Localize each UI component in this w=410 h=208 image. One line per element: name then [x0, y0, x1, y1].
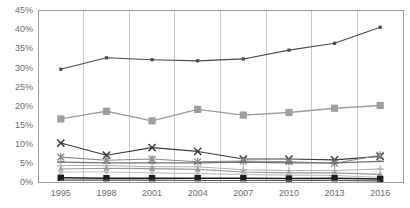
- data-point-marker: [379, 26, 382, 29]
- x-tick-label: 1998: [96, 188, 116, 198]
- data-point-marker: [377, 102, 384, 109]
- x-tick-label: 2004: [188, 188, 208, 198]
- data-point-marker: [242, 57, 245, 60]
- x-tick-label: 2001: [142, 188, 162, 198]
- y-tick-label: 10%: [15, 139, 33, 149]
- data-point-marker: [285, 109, 292, 116]
- y-tick-label: 0%: [20, 177, 33, 187]
- data-point-marker: [194, 106, 201, 113]
- y-tick-label: 20%: [15, 101, 33, 111]
- data-point-marker: [240, 112, 247, 119]
- data-point-marker: [59, 68, 62, 71]
- data-point-marker: [57, 115, 64, 122]
- x-tick-label: 2007: [233, 188, 253, 198]
- x-tick-label: 2013: [325, 188, 345, 198]
- data-point-marker: [104, 170, 108, 174]
- x-tick-label: 2010: [279, 188, 299, 198]
- data-point-marker: [150, 171, 154, 175]
- y-tick-label: 25%: [15, 82, 33, 92]
- data-point-marker: [150, 58, 153, 61]
- x-tick-label: 1995: [51, 188, 71, 198]
- y-tick-label: 30%: [15, 63, 33, 73]
- data-point-marker: [103, 108, 110, 115]
- data-point-marker: [105, 56, 108, 59]
- data-point-marker: [148, 117, 155, 124]
- data-point-marker: [331, 105, 338, 112]
- line-chart: 0%5%10%15%20%25%30%35%40%45% 19951998200…: [0, 0, 410, 208]
- chart-container: 0%5%10%15%20%25%30%35%40%45% 19951998200…: [0, 0, 410, 208]
- y-tick-label: 5%: [20, 158, 33, 168]
- x-tick-label: 2016: [370, 188, 390, 198]
- data-point-marker: [287, 49, 290, 52]
- data-point-marker: [196, 59, 199, 62]
- data-point-marker: [333, 42, 336, 45]
- y-tick-label: 35%: [15, 43, 33, 53]
- y-tick-label: 15%: [15, 120, 33, 130]
- y-tick-label: 45%: [15, 5, 33, 15]
- y-tick-label: 40%: [15, 24, 33, 34]
- data-point-marker: [59, 170, 63, 174]
